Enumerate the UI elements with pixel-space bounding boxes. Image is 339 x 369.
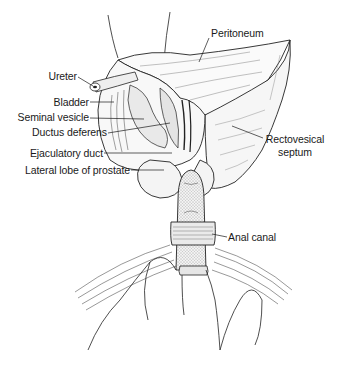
label-ureter: Ureter — [45, 70, 77, 82]
label-rectovesical: Rectovesical — [262, 133, 328, 145]
label-septum: septum — [262, 146, 328, 158]
label-ejaculatory-duct: Ejaculatory duct — [16, 147, 103, 159]
anatomy-illustration — [0, 0, 339, 369]
label-ductus-deferens: Ductus deferens — [20, 126, 107, 138]
label-lateral-lobe-of-prostate: Lateral lobe of prostate — [6, 164, 130, 176]
examining-finger — [176, 170, 206, 270]
examining-hand — [88, 258, 262, 351]
label-seminal-vesicle: Seminal vesicle — [10, 111, 89, 123]
label-bladder: Bladder — [40, 96, 89, 108]
label-peritoneum: Peritoneum — [211, 27, 264, 39]
label-anal-canal: Anal canal — [228, 231, 276, 243]
